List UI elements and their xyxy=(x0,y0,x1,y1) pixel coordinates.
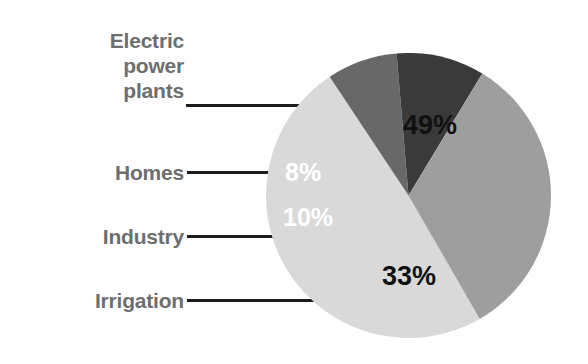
pie-value-homes: 8% xyxy=(285,158,321,187)
pie-label-industry: Industry xyxy=(0,224,184,249)
pie-label-electric-power-plants: Electric power plants xyxy=(0,28,184,103)
leader-line-industry xyxy=(187,235,275,238)
pie-label-homes: Homes xyxy=(0,160,184,185)
pie-value-industry: 10% xyxy=(283,203,333,232)
pie-value-electric-power-plants: 49% xyxy=(403,110,457,141)
pie-label-irrigation: Irrigation xyxy=(0,288,184,313)
pie-graphic xyxy=(266,53,551,338)
pie-chart-figure: Electric power plants Homes Industry Irr… xyxy=(0,0,588,364)
pie-value-irrigation: 33% xyxy=(382,261,436,292)
leader-line-homes xyxy=(187,171,277,174)
pie-svg xyxy=(266,53,551,338)
pie-slices xyxy=(266,53,551,338)
